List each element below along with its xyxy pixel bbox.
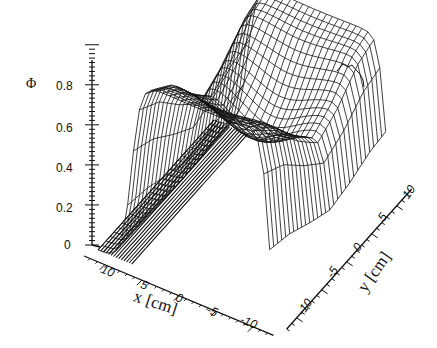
z-tick-label: 0.6 — [56, 121, 73, 135]
z-tick-label: 0.4 — [56, 161, 73, 175]
z-axis-title: Φ — [26, 76, 36, 92]
z-tick-label: 0.2 — [56, 201, 73, 215]
z-tick-label: 0 — [64, 238, 71, 252]
z-tick-label: 0.8 — [56, 79, 73, 93]
chart-root: Φ 0.8 0.6 0.4 0.2 0 10 5 0 -5 -10 x [cm]… — [0, 0, 437, 348]
